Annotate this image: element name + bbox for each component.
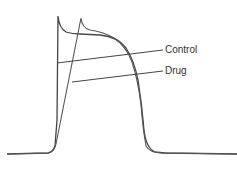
drug-leader-line [72,71,163,82]
control-trace [7,16,237,154]
traces-canvas [0,0,237,171]
control-label: Control [165,45,197,55]
drug-label: Drug [165,66,187,76]
action-potential-diagram: Control Drug [0,0,237,171]
drug-trace [7,18,237,154]
